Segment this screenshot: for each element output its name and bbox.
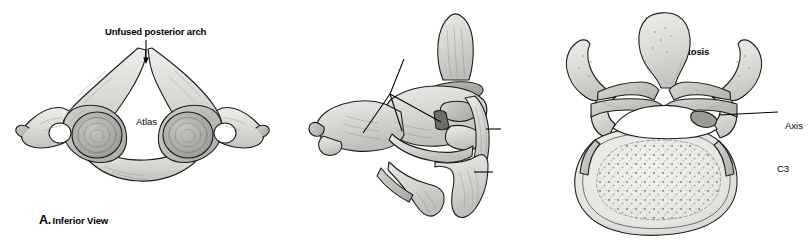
label-unfused-posterior-arch: Unfused posterior arch	[105, 27, 206, 38]
caption-panel-a: A.Inferior View	[39, 210, 108, 228]
figure-container: Unfused posterior arch Atlas A.Inferior …	[0, 0, 812, 248]
axis-c3-illustration	[285, 0, 535, 248]
panel-superior-view: Bony spur (osteophyte) C.Superior View	[535, 0, 812, 248]
panel-lateral-view: Synostosis Axis C3 B.Lateral View	[285, 0, 535, 248]
vertebra-superior-illustration	[535, 0, 812, 248]
panel-inferior-view: Unfused posterior arch Atlas A.Inferior …	[0, 0, 285, 248]
label-atlas: Atlas	[136, 117, 157, 128]
caption-letter-a: A.	[39, 213, 51, 227]
caption-text-a: Inferior View	[53, 215, 109, 226]
